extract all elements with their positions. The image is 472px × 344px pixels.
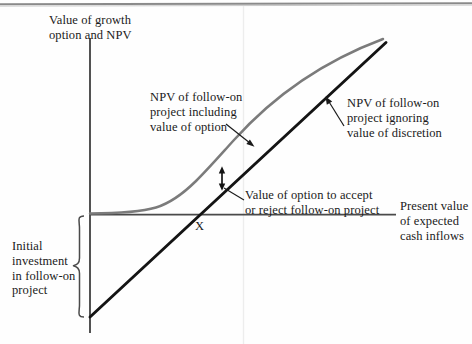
npv-ignoring-discretion-line [90, 43, 386, 318]
x-axis-label: Present value of expected cash inflows [400, 199, 468, 243]
growth-option-npv-diagram: Value of growth option and NPV NPV of fo… [0, 0, 472, 344]
option-value-annotation-label: Value of option to accept or reject foll… [245, 188, 379, 218]
page-top-rule [0, 3, 472, 4]
page-top-rule-shadow [0, 5, 472, 6]
curve-annotation-label: NPV of follow-on project including value… [150, 90, 242, 134]
option-value-leader-line [224, 188, 244, 200]
option-value-double-arrow [219, 166, 225, 191]
line-label-arrow [326, 96, 345, 126]
x-breakeven-marker-label: X [195, 219, 204, 234]
initial-investment-label: Initial investment in follow-on project [12, 239, 75, 298]
y-axis-label: Value of growth option and NPV [49, 13, 132, 43]
line-annotation-label: NPV of follow-on project ignoring value … [347, 96, 442, 140]
